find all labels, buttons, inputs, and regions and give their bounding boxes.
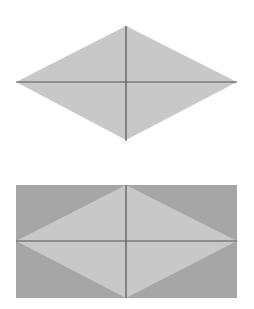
figure-rhombus — [16, 26, 237, 141]
diagram-canvas — [0, 0, 254, 309]
figure-rhombus-in-rectangle — [16, 185, 237, 298]
